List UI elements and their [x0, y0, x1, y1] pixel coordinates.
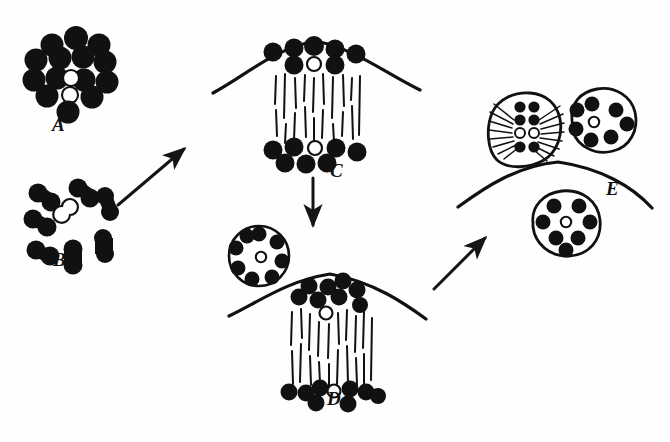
detached-cell: [229, 226, 290, 287]
open-nucleus: [589, 117, 599, 127]
panel-label-d: D: [327, 388, 341, 410]
panel-label-a: A: [52, 114, 65, 136]
open-nucleus: [561, 217, 571, 227]
open-nucleus: [308, 141, 322, 155]
open-nucleus: [529, 128, 539, 138]
panel-label-c: C: [330, 160, 343, 182]
open-nucleus: [256, 252, 266, 262]
open-nucleus: [320, 307, 333, 320]
panel-label-e: E: [606, 178, 619, 200]
open-nucleus: [63, 70, 79, 86]
figure-canvas: Stages of spermatogenesis / cell divisio…: [0, 0, 670, 442]
cell-division-diagram: [0, 0, 670, 442]
open-nucleus: [515, 128, 525, 138]
resting-cell-bottom: [533, 191, 600, 258]
open-nucleus: [62, 87, 78, 103]
open-nucleus: [307, 57, 321, 71]
panel-label-b: B: [53, 249, 66, 271]
resting-cell-right: [569, 88, 636, 152]
spindle-cell: [488, 93, 564, 167]
